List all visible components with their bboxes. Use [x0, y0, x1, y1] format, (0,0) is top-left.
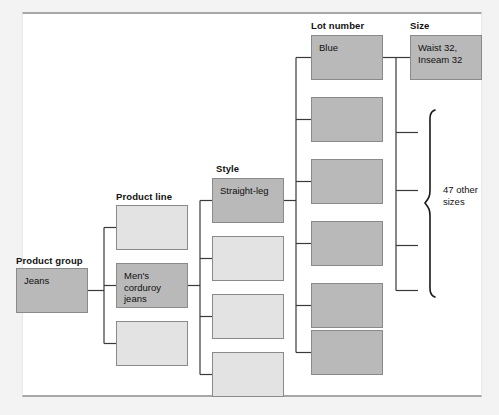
node-size-waist-32-inseam-32[interactable]: Waist 32, Inseam 32	[410, 35, 482, 80]
node-lot-number-5[interactable]	[311, 283, 383, 328]
node-style-2[interactable]	[212, 236, 284, 281]
node-product-group-jeans[interactable]: Jeans	[16, 268, 88, 313]
node-label: Blue	[319, 42, 378, 54]
node-label: Men's corduroy jeans	[124, 270, 183, 305]
node-lot-number-blue[interactable]: Blue	[311, 35, 383, 80]
node-label: Straight-leg	[220, 185, 279, 197]
column-label-size: Size	[410, 20, 429, 31]
node-style-4[interactable]	[212, 352, 284, 397]
column-label-style: Style	[216, 163, 239, 174]
node-product-line-3[interactable]	[116, 321, 188, 366]
brace-path	[425, 110, 435, 297]
diagram-canvas: Product group Product line Style Lot num…	[0, 0, 499, 415]
node-label: Jeans	[24, 275, 83, 287]
node-lot-number-6[interactable]	[311, 330, 383, 375]
node-product-line-1[interactable]	[116, 205, 188, 250]
node-style-straight-leg[interactable]: Straight-leg	[212, 178, 284, 223]
node-lot-number-4[interactable]	[311, 221, 383, 266]
node-lot-number-3[interactable]	[311, 159, 383, 204]
node-label: Waist 32, Inseam 32	[418, 42, 477, 65]
node-lot-number-2[interactable]	[311, 97, 383, 142]
other-sizes-label: 47 other sizes	[443, 184, 478, 207]
node-style-3[interactable]	[212, 294, 284, 339]
column-label-product-group: Product group	[16, 255, 83, 266]
column-label-lot-number: Lot number	[311, 20, 364, 31]
diagram-page: Product group Product line Style Lot num…	[0, 0, 499, 415]
column-label-product-line: Product line	[116, 191, 172, 202]
node-product-line-mens-corduroy-jeans[interactable]: Men's corduroy jeans	[116, 263, 188, 308]
